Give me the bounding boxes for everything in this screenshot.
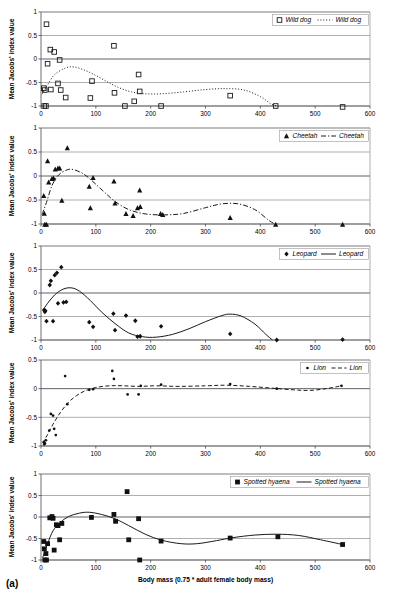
data-point (111, 178, 116, 183)
legend-marker-swatch (235, 480, 240, 485)
x-tick-label: 100 (90, 564, 101, 571)
data-point (64, 375, 67, 378)
data-point (123, 211, 128, 216)
y-axis-title: Mean Jacobs' index value (8, 135, 15, 216)
x-tick-label: 400 (255, 450, 266, 457)
data-point (87, 184, 92, 189)
y-tick-label: -1 (31, 442, 37, 449)
data-point (112, 44, 117, 49)
data-point (44, 22, 49, 27)
x-tick-label: 400 (255, 110, 266, 117)
x-tick-label: 600 (365, 564, 376, 571)
legend-line-label: Spotted hyaena (315, 478, 362, 486)
y-tick-label: 0 (33, 513, 37, 520)
chart-panel-3: 10.50-0.5-10100200300400500600Mean Jacob… (0, 242, 393, 364)
legend-line-label: Wild dog (336, 16, 362, 24)
data-point (66, 403, 69, 406)
data-point (138, 334, 142, 339)
data-point (64, 300, 68, 305)
y-tick-label: 0.5 (28, 148, 37, 155)
data-point (58, 88, 63, 93)
data-point (63, 95, 68, 100)
data-point (228, 331, 232, 336)
x-tick-label: 300 (200, 110, 211, 117)
x-tick-label: 500 (310, 344, 321, 351)
data-point (87, 320, 91, 325)
fitted-curve (43, 385, 342, 443)
data-point (113, 328, 117, 333)
x-tick-label: 200 (145, 110, 156, 117)
legend-marker-label: Cheetah (293, 132, 318, 139)
data-point-group (41, 22, 344, 109)
data-point (54, 434, 57, 437)
data-point (113, 378, 116, 381)
figure-caption: (a) (6, 578, 18, 589)
x-tick-label: 100 (90, 344, 101, 351)
x-tick-label: 400 (255, 344, 266, 351)
y-tick-label: 0.5 (28, 492, 37, 499)
x-tick-label: 500 (310, 228, 321, 235)
data-point (88, 388, 91, 391)
fitted-curve (42, 169, 276, 224)
legend-line-label: Cheetah (339, 132, 364, 139)
y-tick-label: -1 (31, 102, 37, 109)
data-point (42, 546, 47, 551)
y-axis-title: Mean Jacobs' index value (8, 362, 15, 443)
fitted-curve (43, 288, 273, 340)
legend-marker-swatch (306, 367, 309, 370)
data-point (91, 324, 95, 329)
figure-panel-a: 10.50-0.5-10100200300400500600Mean Jacob… (0, 0, 393, 604)
x-tick-label: 400 (255, 228, 266, 235)
x-tick-label: 0 (39, 228, 43, 235)
data-point (45, 61, 50, 66)
y-tick-label: 1 (33, 242, 37, 249)
data-point (52, 548, 57, 553)
data-point (59, 521, 64, 526)
chart-panel-1: 10.50-0.5-10100200300400500600Mean Jacob… (0, 8, 393, 130)
fitted-curve (42, 67, 278, 106)
x-tick-label: 0 (39, 450, 43, 457)
y-tick-label: 0 (33, 172, 37, 179)
data-point (49, 87, 54, 92)
x-tick-label: 300 (200, 450, 211, 457)
chart-panel-5: 10.50-0.5-10100200300400500600Mean Jacob… (0, 470, 393, 596)
data-point (160, 383, 163, 386)
data-point (56, 81, 61, 86)
x-tick-label: 200 (145, 564, 156, 571)
x-tick-label: 300 (200, 228, 211, 235)
data-point (137, 558, 142, 563)
data-point (57, 537, 62, 542)
data-point (139, 384, 142, 387)
x-tick-label: 500 (310, 564, 321, 571)
x-tick-label: 600 (365, 344, 376, 351)
data-point (52, 414, 55, 417)
x-tick-label: 600 (365, 228, 376, 235)
data-point (57, 58, 62, 63)
y-tick-label: 0 (33, 55, 37, 62)
data-point (45, 158, 50, 163)
y-tick-label: 0.5 (28, 32, 37, 39)
x-tick-label: 0 (39, 564, 43, 571)
y-tick-label: -0.5 (26, 313, 37, 320)
data-point (51, 516, 56, 521)
data-point (45, 439, 48, 442)
data-point (59, 265, 63, 270)
data-point-group (42, 370, 342, 446)
data-point (65, 145, 70, 150)
data-point (340, 105, 345, 110)
data-point (340, 337, 344, 342)
data-point (56, 301, 60, 306)
x-tick-label: 500 (310, 450, 321, 457)
data-point (48, 429, 51, 432)
y-tick-label: 1 (33, 124, 37, 131)
data-point (137, 188, 142, 193)
data-point (44, 558, 49, 563)
y-tick-label: -0.5 (26, 79, 37, 86)
data-point (44, 319, 48, 324)
y-tick-label: -0.5 (26, 535, 37, 542)
x-tick-label: 300 (200, 344, 211, 351)
legend-line-label: Lion (350, 364, 363, 371)
y-tick-label: -1 (31, 556, 37, 563)
y-tick-label: -1 (31, 336, 37, 343)
legend-marker-label: Wild dog (286, 16, 312, 24)
